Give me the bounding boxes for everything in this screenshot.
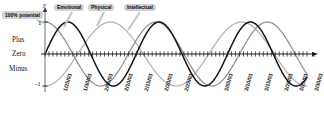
x-tick-label: 3/15/03 xyxy=(263,73,274,92)
x-tick-label: 1/25/03 xyxy=(62,73,73,92)
x-tick-label: 1/30/03 xyxy=(82,73,93,92)
x-tick-label: 3/05/03 xyxy=(223,73,234,92)
x-tick-label: 3/25/03 xyxy=(298,73,309,92)
x-tick-label: 3/30/03 xyxy=(313,73,324,92)
x-tick-label: 2/10/03 xyxy=(123,73,134,92)
x-tick-label: 2/15/03 xyxy=(143,73,154,92)
x-tick-label: 2/25/03 xyxy=(183,73,194,92)
x-tick-label: 2/05/03 xyxy=(103,73,114,92)
x-tick-label: 3/20/03 xyxy=(283,73,294,92)
x-tick-label: 3/10/03 xyxy=(243,73,254,92)
x-tick-label: 2/20/03 xyxy=(163,73,174,92)
